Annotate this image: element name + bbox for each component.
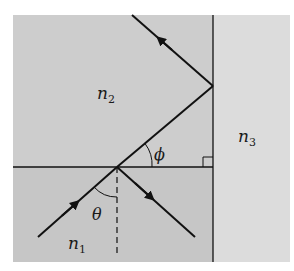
region-n2 (13, 15, 213, 167)
label-phi: ϕ (154, 145, 165, 164)
region-n1 (13, 167, 213, 262)
optics-diagram: n2 n3 n1 θ ϕ (0, 0, 294, 271)
label-theta: θ (92, 205, 102, 224)
